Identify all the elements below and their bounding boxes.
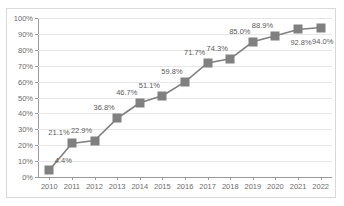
data-point-label: 46.7% [116, 87, 137, 96]
x-tick-mark [208, 177, 209, 180]
y-tick-mark [35, 177, 38, 178]
chart-container: 0%10%20%30%40%50%60%70%80%90%100% 201020… [0, 0, 344, 206]
x-tick-mark [49, 177, 50, 180]
x-tick-mark [275, 177, 276, 180]
data-point-label: 74.3% [207, 43, 228, 52]
plot-area: 0%10%20%30%40%50%60%70%80%90%100% 201020… [38, 18, 332, 177]
data-point-marker[interactable] [181, 77, 190, 86]
x-tick-label: 2021 [290, 182, 307, 191]
data-point-marker[interactable] [158, 91, 167, 100]
x-tick-mark [321, 177, 322, 180]
x-tick-mark [185, 177, 186, 180]
data-point-marker[interactable] [316, 23, 325, 32]
y-tick-label: 20% [18, 141, 33, 150]
x-tick-mark [253, 177, 254, 180]
x-tick-mark [117, 177, 118, 180]
x-tick-mark [298, 177, 299, 180]
y-tick-label: 70% [18, 61, 33, 70]
data-point-label: 94.0% [312, 36, 333, 45]
data-point-label: 22.9% [71, 125, 92, 134]
x-tick-label: 2013 [109, 182, 126, 191]
x-tick-label: 2011 [64, 182, 80, 191]
data-point-label: 85.0% [229, 26, 250, 35]
y-tick-label: 60% [18, 77, 33, 86]
x-tick-label: 2014 [131, 182, 148, 191]
x-tick-label: 2016 [177, 182, 194, 191]
x-tick-label: 2018 [222, 182, 239, 191]
data-point-marker[interactable] [67, 139, 76, 148]
data-point-label: 59.8% [161, 66, 182, 75]
x-tick-label: 2017 [199, 182, 216, 191]
data-point-label: 51.1% [139, 80, 160, 89]
data-point-marker[interactable] [90, 136, 99, 145]
data-point-label: 21.1% [48, 128, 69, 137]
data-point-marker[interactable] [248, 37, 257, 46]
data-point-label: 92.8% [290, 38, 311, 47]
series-line [38, 18, 332, 177]
data-point-marker[interactable] [271, 31, 280, 40]
x-tick-mark [72, 177, 73, 180]
x-tick-label: 2022 [312, 182, 329, 191]
y-tick-label: 50% [18, 93, 33, 102]
x-tick-mark [162, 177, 163, 180]
x-tick-mark [230, 177, 231, 180]
x-tick-label: 2019 [245, 182, 262, 191]
x-tick-mark [140, 177, 141, 180]
data-point-marker[interactable] [294, 25, 303, 34]
data-point-label: 88.9% [252, 20, 273, 29]
data-point-marker[interactable] [135, 98, 144, 107]
x-tick-label: 2015 [154, 182, 171, 191]
y-tick-label: 0% [22, 173, 33, 182]
x-tick-label: 2010 [41, 182, 58, 191]
x-tick-label: 2020 [267, 182, 284, 191]
data-point-marker[interactable] [113, 114, 122, 123]
y-tick-label: 30% [18, 125, 33, 134]
data-point-label: 36.8% [94, 103, 115, 112]
x-tick-label: 2012 [86, 182, 103, 191]
y-tick-label: 10% [18, 157, 33, 166]
y-tick-label: 100% [14, 14, 33, 23]
data-point-marker[interactable] [226, 54, 235, 63]
y-tick-label: 80% [18, 45, 33, 54]
data-point-marker[interactable] [45, 166, 54, 175]
y-tick-label: 40% [18, 109, 33, 118]
data-point-label: 71.7% [184, 47, 205, 56]
x-tick-mark [95, 177, 96, 180]
data-point-marker[interactable] [203, 58, 212, 67]
data-point-label: 4.4% [55, 156, 72, 165]
y-tick-label: 90% [18, 29, 33, 38]
